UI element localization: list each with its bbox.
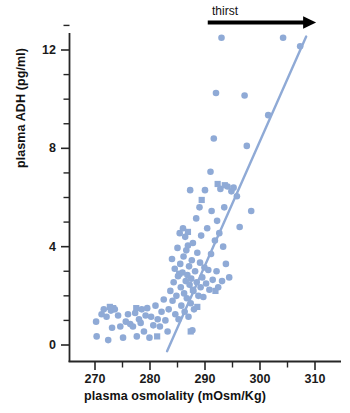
- data-point-circle: [148, 313, 155, 320]
- data-point-circle: [219, 278, 226, 285]
- data-point-circle: [193, 215, 200, 222]
- data-point-circle: [203, 280, 210, 287]
- data-point-circle: [162, 317, 169, 324]
- data-point-circle: [208, 208, 215, 215]
- data-point-circle: [197, 284, 204, 291]
- data-point-square: [199, 197, 205, 203]
- y-tick-label: 4: [30, 240, 56, 254]
- data-point-circle: [197, 259, 204, 266]
- data-point-circle: [178, 284, 185, 291]
- data-point-circle: [105, 337, 112, 344]
- x-tick-label: 300: [249, 372, 270, 386]
- x-tick-label: 270: [84, 372, 105, 386]
- data-markers-layer: [93, 34, 304, 343]
- data-point-circle: [93, 333, 100, 340]
- data-point-circle: [141, 328, 148, 335]
- data-point-circle: [213, 90, 220, 97]
- data-point-circle: [206, 286, 213, 293]
- data-point-circle: [214, 218, 221, 225]
- data-point-circle: [204, 225, 211, 232]
- data-point-circle: [160, 296, 167, 303]
- data-point-circle: [144, 305, 151, 312]
- data-point-circle: [211, 135, 218, 142]
- y-tick-label: 0: [30, 338, 56, 352]
- x-tick-label: 290: [194, 372, 215, 386]
- data-point-circle: [174, 245, 181, 252]
- data-point-circle: [185, 313, 192, 320]
- data-point-circle: [186, 263, 193, 270]
- data-point-circle: [218, 34, 225, 41]
- data-point-circle: [230, 184, 237, 191]
- data-point-circle: [196, 204, 203, 211]
- data-point-circle: [194, 250, 201, 257]
- data-point-circle: [120, 334, 127, 341]
- data-point-square: [185, 229, 191, 235]
- y-axis-title: plasma ADH (pg/ml): [14, 8, 28, 208]
- data-point-circle: [173, 293, 180, 300]
- data-point-circle: [202, 187, 209, 194]
- data-point-square: [215, 181, 221, 187]
- data-point-square: [194, 304, 200, 310]
- data-point-square: [154, 333, 160, 339]
- data-point-circle: [207, 168, 214, 175]
- data-point-circle: [192, 268, 199, 275]
- data-point-circle: [248, 208, 255, 215]
- data-point-circle: [178, 302, 185, 309]
- data-point-circle: [130, 323, 137, 330]
- data-point-circle: [125, 311, 132, 318]
- data-point-circle: [213, 268, 220, 275]
- data-point-circle: [117, 323, 124, 330]
- data-point-circle: [244, 143, 251, 150]
- data-point-circle: [157, 323, 164, 330]
- data-point-circle: [150, 322, 157, 329]
- data-point-circle: [146, 334, 153, 341]
- data-point-circle: [109, 324, 116, 331]
- data-point-square: [133, 305, 139, 311]
- regression-line: [167, 36, 306, 351]
- y-tick-label: 8: [30, 141, 56, 155]
- data-point-circle: [209, 277, 216, 284]
- data-point-circle: [180, 253, 187, 260]
- x-tick-label: 310: [304, 372, 325, 386]
- data-point-circle: [188, 275, 195, 282]
- data-point-circle: [152, 302, 159, 309]
- data-point-circle: [236, 224, 243, 231]
- data-point-square: [212, 288, 218, 294]
- x-tick-label: 280: [139, 372, 160, 386]
- data-point-square: [188, 328, 194, 334]
- data-point-circle: [177, 261, 184, 268]
- data-point-circle: [220, 243, 227, 250]
- data-point-circle: [134, 333, 141, 340]
- data-point-circle: [280, 34, 287, 41]
- thirst-annotation-label: thirst: [212, 4, 238, 18]
- x-axis-title: plasma osmolality (mOsm/Kg): [0, 389, 350, 403]
- data-point-circle: [169, 256, 176, 263]
- y-tick-label: 12: [30, 43, 56, 57]
- thirst-arrow-layer: [208, 16, 316, 28]
- data-point-circle: [101, 306, 108, 313]
- data-point-circle: [190, 240, 197, 247]
- data-point-circle: [223, 261, 230, 268]
- data-point-circle: [115, 312, 122, 319]
- data-point-square: [110, 305, 116, 311]
- trend-line-layer: [167, 36, 306, 351]
- data-point-circle: [226, 274, 233, 281]
- data-point-circle: [167, 288, 174, 295]
- data-point-circle: [137, 320, 144, 327]
- data-point-circle: [221, 204, 228, 211]
- data-point-square: [222, 182, 228, 188]
- data-point-square: [176, 271, 182, 277]
- data-point-circle: [198, 232, 205, 239]
- data-point-circle: [158, 309, 165, 316]
- data-point-circle: [93, 318, 100, 325]
- data-point-circle: [138, 306, 145, 313]
- data-point-circle: [164, 328, 171, 335]
- data-point-circle: [103, 313, 110, 320]
- data-point-circle: [241, 92, 248, 99]
- data-point-circle: [187, 187, 194, 194]
- data-point-circle: [170, 279, 177, 286]
- data-point-circle: [205, 267, 212, 274]
- thirst-arrow-head: [303, 16, 316, 28]
- data-point-circle: [154, 316, 161, 323]
- scatter-plot-figure: 270280290300310 04812 plasma osmolality …: [0, 0, 350, 413]
